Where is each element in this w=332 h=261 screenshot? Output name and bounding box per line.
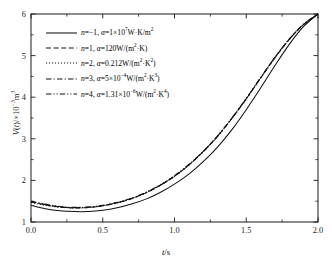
y-tick-label: 4: [22, 93, 27, 102]
legend-item-1: n=1, α=120W/(m2·K): [46, 40, 261, 55]
legend-line-sample-4: [46, 90, 77, 98]
chart-figure: 0.00.51.01.52.0123456 n=−1, α=1×107W·K/m…: [0, 0, 332, 261]
x-tick-label: 2.0: [313, 226, 323, 235]
legend-label-1: n=1, α=120W/(m2·K): [81, 44, 147, 53]
x-tick-label: 1.0: [169, 226, 179, 235]
legend-label-4: n=4, α=1.31×10−6W/(m2·K4): [81, 90, 169, 99]
x-axis-title: t/s: [0, 241, 332, 259]
legend-line-sample-3: [46, 75, 77, 83]
x-tick-label: 1.5: [241, 226, 251, 235]
y-tick-label: 5: [22, 52, 26, 61]
y-tick-label: 3: [22, 135, 26, 144]
legend-item-0: n=−1, α=1×107W·K/m2: [46, 25, 261, 40]
y-tick-label: 2: [22, 176, 26, 185]
y-axis-title: V(t)/×10−3m3: [11, 48, 21, 178]
legend-label-3: n=3, α=5×10−4W/(m2·K3): [81, 74, 160, 83]
legend-label-2: n=2, α=0.212W/(m2·K2): [81, 59, 155, 68]
legend-label-0: n=−1, α=1×107W·K/m2: [81, 28, 153, 37]
legend-item-3: n=3, α=5×10−4W/(m2·K3): [46, 71, 261, 86]
x-tick-label: 0.0: [26, 226, 36, 235]
legend-line-sample-0: [46, 29, 77, 37]
y-tick-label: 6: [22, 10, 26, 19]
legend-item-2: n=2, α=0.212W/(m2·K2): [46, 56, 261, 71]
y-tick-label: 1: [22, 218, 26, 227]
legend-line-sample-1: [46, 44, 77, 52]
legend-line-sample-2: [46, 59, 77, 67]
chart-legend: n=−1, α=1×107W·K/m2n=1, α=120W/(m2·K)n=2…: [46, 25, 261, 102]
x-tick-label: 0.5: [98, 226, 108, 235]
legend-item-4: n=4, α=1.31×10−6W/(m2·K4): [46, 87, 261, 102]
